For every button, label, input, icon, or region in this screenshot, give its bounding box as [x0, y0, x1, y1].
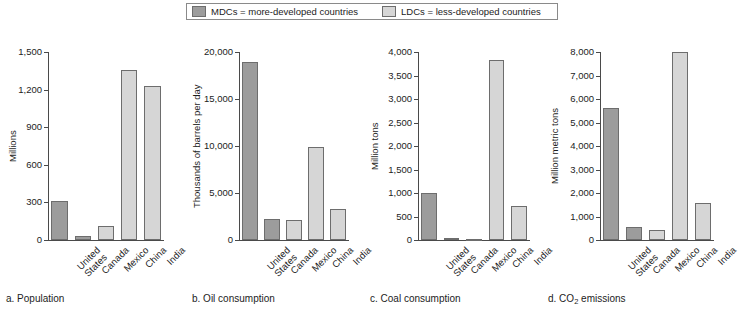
bar: [421, 193, 437, 240]
y-axis-line: [418, 52, 419, 241]
y-axis-tick-label: 2,000: [370, 141, 412, 151]
y-axis-tick-label: 2,000: [552, 188, 594, 198]
legend-swatch-ldc-icon: [382, 6, 396, 17]
y-axis-tick-label: 1,000: [552, 212, 594, 222]
y-axis-tick-label: 4,000: [552, 141, 594, 151]
y-axis-tick: [414, 123, 418, 124]
y-axis-tick: [596, 99, 600, 100]
y-axis-tick: [44, 240, 48, 241]
y-axis-line: [48, 52, 49, 241]
y-axis-tick-label: 500: [370, 212, 412, 222]
y-axis-tick-label: 7,000: [552, 71, 594, 81]
bar: [121, 70, 137, 240]
chart-panel-co2-emissions: Million metric tons01,0002,0003,0004,000…: [544, 40, 728, 320]
y-axis-tick-label: 600: [0, 160, 42, 170]
y-axis-tick-label: 1,200: [0, 85, 42, 95]
x-axis-category-label: India: [166, 245, 188, 267]
y-axis-tick-label: 900: [0, 122, 42, 132]
y-axis-tick: [596, 146, 600, 147]
y-axis-tick-label: 0: [0, 235, 42, 245]
y-axis-tick-label: 1,000: [370, 188, 412, 198]
y-axis-tick: [596, 217, 600, 218]
bar: [98, 226, 114, 240]
y-axis-tick-label: 3,500: [370, 71, 412, 81]
y-axis-tick-label: 5,000: [552, 118, 594, 128]
y-axis-tick: [235, 193, 239, 194]
y-axis-tick: [44, 90, 48, 91]
y-axis-tick-label: 8,000: [552, 47, 594, 57]
y-axis-tick: [44, 52, 48, 53]
y-axis-tick: [414, 170, 418, 171]
y-axis-tick: [414, 99, 418, 100]
bar: [242, 62, 257, 240]
y-axis-tick: [414, 76, 418, 77]
y-axis-tick-label: 0: [191, 235, 233, 245]
y-axis-tick: [235, 99, 239, 100]
bar: [649, 230, 665, 240]
y-axis-tick: [596, 170, 600, 171]
x-axis-line: [600, 240, 714, 241]
y-axis-tick-label: 1,500: [370, 165, 412, 175]
x-axis-line: [48, 240, 164, 241]
y-axis-tick: [596, 240, 600, 241]
y-axis-tick-label: 300: [0, 197, 42, 207]
y-axis-tick: [414, 240, 418, 241]
y-axis-tick: [235, 240, 239, 241]
bar: [466, 239, 482, 241]
bar: [330, 209, 345, 240]
y-axis-tick: [596, 193, 600, 194]
y-axis-tick: [44, 165, 48, 166]
chart-panel-population: Millions03006009001,2001,500United State…: [0, 40, 186, 320]
y-axis-tick-label: 6,000: [552, 94, 594, 104]
y-axis-tick-label: 1,500: [0, 47, 42, 57]
bar: [51, 201, 67, 240]
y-axis-tick: [44, 127, 48, 128]
plot-area: Millions03006009001,2001,500United State…: [0, 40, 186, 245]
plot-area: Million metric tons01,0002,0003,0004,000…: [544, 40, 728, 245]
y-axis-tick-label: 20,000: [191, 47, 233, 57]
bar: [264, 219, 279, 240]
chart-panel-coal-consumption: Million tons05001,0001,5002,0002,5003,00…: [364, 40, 544, 320]
y-axis-tick: [414, 52, 418, 53]
bar: [444, 238, 460, 240]
legend-label-mdc: MDCs = more-developed countries: [211, 7, 358, 17]
bar: [144, 86, 160, 240]
y-axis-line: [600, 52, 601, 241]
y-axis-tick-label: 15,000: [191, 94, 233, 104]
y-axis-tick: [414, 193, 418, 194]
bar: [286, 220, 301, 240]
chart-caption: a. Population: [6, 294, 64, 304]
y-axis-line: [239, 52, 240, 241]
y-axis-label: Millions: [8, 52, 18, 240]
y-axis-tick-label: 4,000: [370, 47, 412, 57]
y-axis-tick-label: 0: [370, 235, 412, 245]
y-axis-tick: [44, 202, 48, 203]
y-axis-tick-label: 2,500: [370, 118, 412, 128]
y-axis-tick-label: 5,000: [191, 188, 233, 198]
legend-entry-ldc: LDCs = less-developed countries: [382, 4, 541, 19]
bar: [695, 203, 711, 240]
chart-legend: MDCs = more-developed countries LDCs = l…: [186, 3, 558, 20]
legend-entry-mdc: MDCs = more-developed countries: [192, 4, 358, 19]
x-axis-line: [239, 240, 349, 241]
y-axis-tick: [414, 217, 418, 218]
bar: [626, 227, 642, 240]
plot-area: Thousands of barrels per day05,00010,000…: [186, 40, 364, 245]
chart-panel-oil-consumption: Thousands of barrels per day05,00010,000…: [186, 40, 364, 320]
y-axis-tick-label: 10,000: [191, 141, 233, 151]
bar: [75, 236, 91, 240]
legend-swatch-mdc-icon: [192, 6, 206, 17]
chart-caption: d. CO2 emissions: [548, 294, 626, 304]
x-axis-category-label: India: [716, 245, 738, 267]
y-axis-tick: [596, 76, 600, 77]
y-axis-tick-label: 0: [552, 235, 594, 245]
y-axis-tick: [596, 52, 600, 53]
chart-caption: b. Oil consumption: [192, 294, 275, 304]
bar: [489, 60, 505, 240]
legend-label-ldc: LDCs = less-developed countries: [401, 7, 541, 17]
plot-area: Million tons05001,0001,5002,0002,5003,00…: [364, 40, 544, 245]
bar: [603, 108, 619, 240]
bar: [672, 52, 688, 240]
y-axis-tick-label: 3,000: [370, 94, 412, 104]
y-axis-tick: [235, 52, 239, 53]
